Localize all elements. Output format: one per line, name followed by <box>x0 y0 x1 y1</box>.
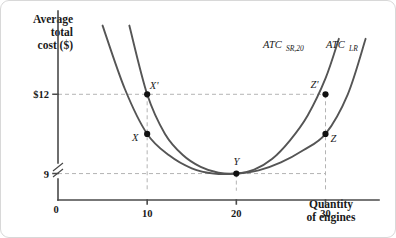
x-axis-title-line-2: of engines <box>307 211 356 224</box>
data-point-Z <box>322 131 328 137</box>
y-axis-title-line-1: Average <box>33 13 73 26</box>
figure-frame: Average total cost ($) Quantity of engin… <box>0 0 396 238</box>
x-axis-title: Quantity of engines <box>307 198 356 224</box>
dashed-guidelines <box>58 94 326 190</box>
curve-label-atc-lr-main: ATC <box>325 39 346 50</box>
data-point-Y <box>233 170 239 176</box>
point-label-Z-prime: Z' <box>310 79 319 90</box>
y-axis-title-line-3: cost ($) <box>38 39 74 52</box>
point-label-X-prime: X' <box>149 80 159 91</box>
y-tick-label-9: 9 <box>44 169 49 180</box>
y-tick-label-12: $12 <box>33 89 49 100</box>
y-axis-title-line-2: total <box>51 26 73 38</box>
x-tick-label-20: 20 <box>231 208 242 219</box>
y-axis-title: Average total cost ($) <box>33 13 73 52</box>
data-point-X <box>144 131 150 137</box>
x-tick-label-10: 10 <box>142 208 153 219</box>
curve-label-atc-lr: ATC LR <box>325 39 358 53</box>
data-point-X-prime <box>144 91 150 97</box>
curve-atc-sr <box>129 26 339 174</box>
average-total-cost-chart: Average total cost ($) Quantity of engin… <box>1 1 396 238</box>
curve-label-atc-sr: ATC SR,20 <box>262 39 304 53</box>
point-label-Y: Y <box>233 156 240 167</box>
data-point-Z-prime <box>322 91 328 97</box>
curve-label-atc-lr-sub: LR <box>348 44 358 53</box>
curve-label-atc-sr-sub: SR,20 <box>286 44 304 53</box>
origin-label: 0 <box>53 204 58 215</box>
axis-break-mark <box>53 163 63 177</box>
curve-label-atc-sr-main: ATC <box>262 39 283 50</box>
point-label-Z: Z <box>331 133 337 144</box>
point-label-X: X <box>131 132 139 143</box>
x-tick-label-30: 30 <box>320 208 331 219</box>
